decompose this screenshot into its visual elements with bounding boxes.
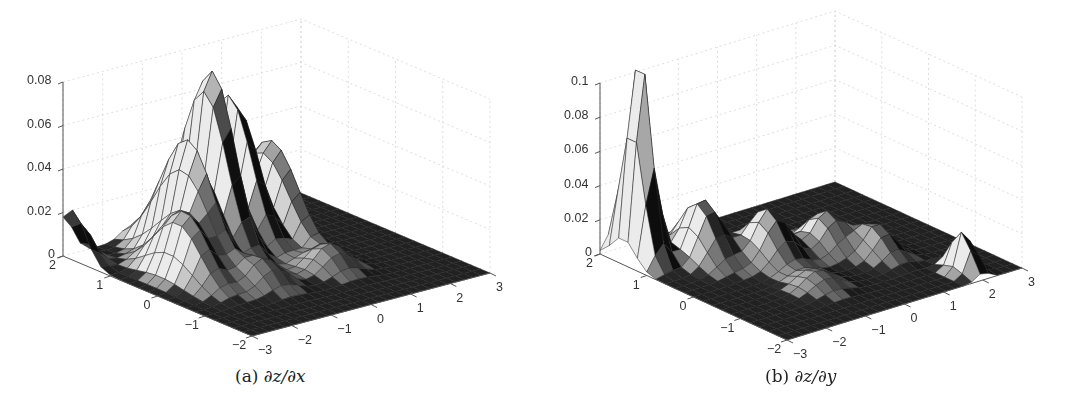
x-tick-label: 1 — [417, 302, 424, 315]
y-tick-label: −1 — [720, 322, 734, 335]
surface-plot-dz-dx — [0, 0, 540, 360]
x-tick-label: 0 — [911, 312, 918, 325]
subplot-b: 00.020.040.060.080.1−2−1012−3−2−10123 (b… — [540, 0, 1087, 414]
x-tick-label: 3 — [1028, 276, 1035, 289]
z-tick-label: 0.02 — [564, 212, 588, 225]
y-tick-label: 0 — [680, 300, 687, 313]
z-tick-label: 0.04 — [564, 178, 588, 191]
x-tick-label: −3 — [258, 344, 272, 357]
z-tick-label: 0.04 — [27, 161, 51, 174]
x-tick-label: −2 — [298, 334, 312, 347]
y-tick-label: −1 — [185, 319, 199, 332]
y-tick-label: 0 — [144, 299, 151, 312]
caption-a: (a) ∂z/∂x — [235, 366, 306, 386]
x-tick-label: 2 — [456, 292, 463, 305]
caption-b: (b) ∂z/∂y — [765, 366, 836, 386]
z-tick-label: 0.1 — [571, 75, 588, 88]
x-tick-label: 3 — [496, 281, 503, 294]
y-tick-label: −2 — [232, 339, 246, 352]
x-tick-label: 0 — [377, 313, 384, 326]
z-tick-label: 0.06 — [564, 143, 588, 156]
caption-a-math: ∂z/∂x — [264, 366, 306, 386]
y-tick-label: −2 — [767, 343, 781, 356]
subplot-a: 00.020.040.060.08−2−1012−3−2−10123 (a) ∂… — [0, 0, 540, 414]
y-tick-label: 1 — [96, 279, 103, 292]
caption-a-prefix: (a) — [235, 366, 258, 386]
y-tick-label: 2 — [586, 257, 593, 270]
x-tick-label: 2 — [989, 288, 996, 301]
y-tick-label: 1 — [633, 279, 640, 292]
x-tick-label: −1 — [871, 324, 885, 337]
z-tick-label: 0.08 — [564, 109, 588, 122]
x-tick-label: 1 — [950, 300, 957, 313]
x-tick-label: −2 — [832, 336, 846, 349]
caption-b-math: ∂z/∂y — [795, 366, 837, 386]
y-tick-label: 2 — [49, 259, 56, 272]
z-tick-label: 0.06 — [27, 118, 51, 131]
x-tick-label: −1 — [337, 323, 351, 336]
z-tick-label: 0.02 — [27, 205, 51, 218]
surface-plot-dz-dy — [540, 0, 1087, 360]
x-tick-label: −3 — [793, 348, 807, 361]
z-tick-label: 0.08 — [27, 74, 51, 87]
caption-b-prefix: (b) — [765, 366, 789, 386]
